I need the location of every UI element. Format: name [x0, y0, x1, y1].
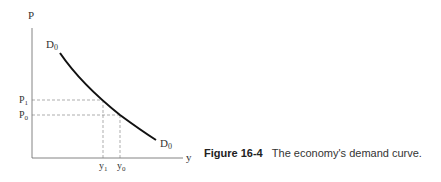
figure-number: Figure 16-4: [204, 147, 263, 159]
p1-tick-label: P1: [19, 94, 29, 107]
y-axis-label: P: [28, 9, 34, 21]
figure-caption-text: The economy's demand curve.: [272, 147, 422, 159]
demand-curve-chart: P y D0 D0 P1 P0 y1 y0: [0, 0, 200, 182]
x-axis-label: y: [186, 151, 192, 163]
curve-label-top: D0: [46, 38, 58, 52]
y0-tick-label: y0: [117, 160, 126, 173]
y1-tick-label: y1: [99, 160, 108, 173]
p0-tick-label: P0: [19, 109, 29, 122]
demand-curve-d0: [60, 53, 156, 140]
figure-caption: Figure 16-4 The economy's demand curve.: [204, 147, 436, 160]
curve-label-bottom: D0: [160, 137, 172, 151]
